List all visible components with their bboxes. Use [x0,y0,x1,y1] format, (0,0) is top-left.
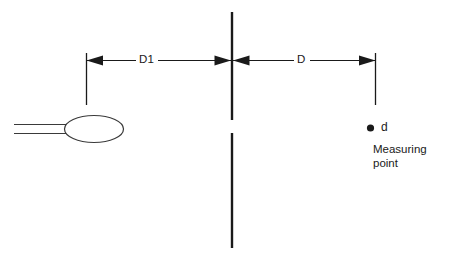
dimension-label-d1: D1 [139,53,154,65]
dimension-label-d: D [297,53,306,65]
measuring-point-marker [367,124,374,131]
arrowhead-d1-left [87,56,104,66]
loop-antenna-body [65,116,124,143]
arrowhead-d-right [359,56,376,66]
measuring-point-caption-line-1: Measuring [373,143,445,157]
measuring-point-caption: Measuring point [373,143,445,170]
measuring-point-marker-label: d [381,120,388,134]
measuring-point-caption-line-2: point [373,157,445,171]
arrowhead-d1-right [215,56,232,66]
technical-diagram: D1 D d Measuring point [0,0,451,260]
arrowhead-d-left [233,56,250,66]
